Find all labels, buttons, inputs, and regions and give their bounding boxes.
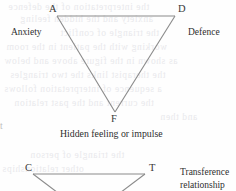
triangle2-left-edge (33, 174, 74, 191)
vertex-label-t: T (149, 163, 155, 174)
triangle-of-person-shape (33, 174, 145, 191)
label-anxiety: Anxiety (11, 27, 42, 38)
label-defence: Defence (188, 27, 220, 38)
vertex-label-f: F (111, 114, 117, 125)
vertex-label-c: C (25, 163, 32, 174)
triangle-of-conflict-shape (57, 16, 175, 112)
caption-hidden-feeling-or-impulse: Hidden feeling or impulse (60, 129, 163, 139)
triangle-left-edge-af (57, 16, 115, 112)
label-transference-line2: relationship (180, 180, 225, 191)
vertex-label-d: D (178, 4, 186, 15)
triangle2-right-edge (104, 174, 145, 191)
figure-page: the interpretation of the defence anxiet… (0, 0, 236, 191)
label-transference-line1: Transference (180, 167, 229, 178)
triangle-right-edge-df (115, 16, 175, 112)
vertex-label-a: A (49, 4, 57, 15)
